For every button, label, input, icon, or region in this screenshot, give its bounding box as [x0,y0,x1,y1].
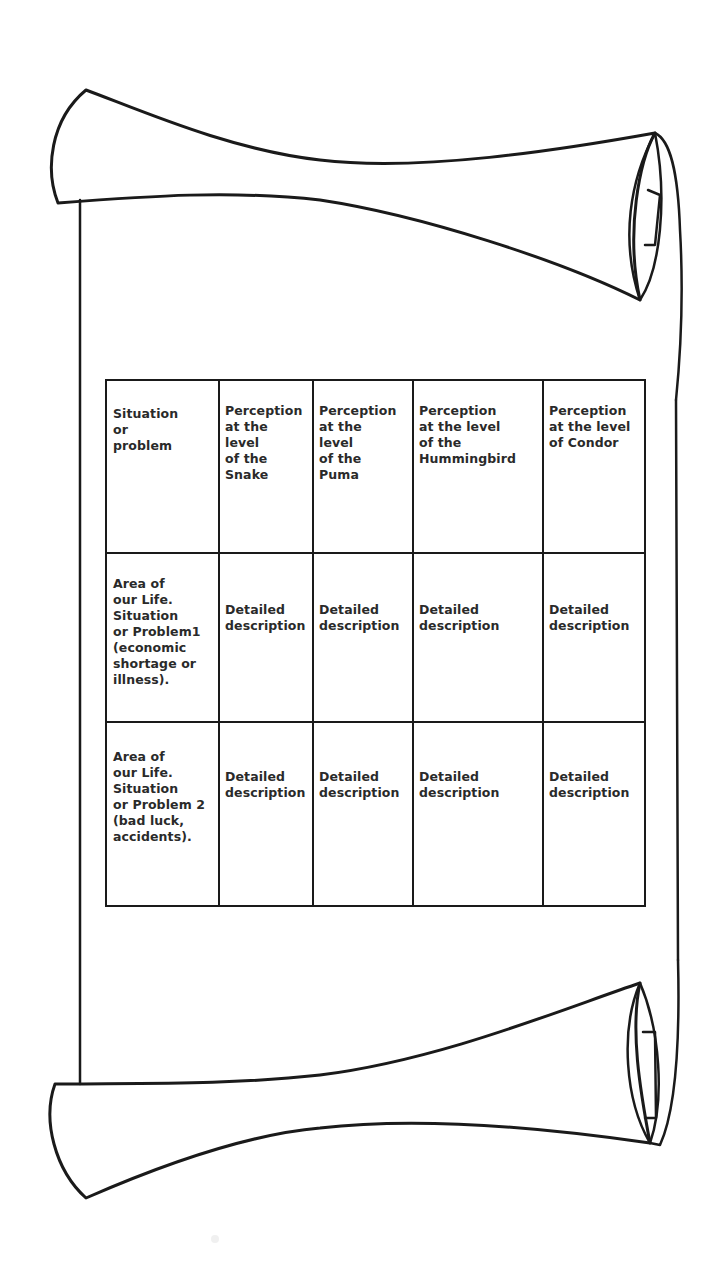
row-label-cell: Area of our Life. Situation or Problem 2… [106,722,219,906]
table-cell: Detailed description [219,722,313,906]
cell-text: Detailed description [225,723,307,801]
row-label: Area of our Life. Situation or Problem1 … [113,554,213,688]
table-cell: Detailed description [543,553,645,722]
table-cell: Detailed description [313,553,413,722]
header-text: Perception at the level of the Puma [319,403,407,483]
row-label-cell: Area of our Life. Situation or Problem1 … [106,553,219,722]
table-row: Area of our Life. Situation or Problem1 … [106,553,645,722]
header-text: Perception at the level of Condor [549,403,639,451]
cell-text: Detailed description [319,554,407,634]
table-cell: Detailed description [219,553,313,722]
cell-text: Detailed description [419,723,537,801]
table-row: Area of our Life. Situation or Problem 2… [106,722,645,906]
faint-artifact-mark [208,1232,222,1246]
header-cell-hummingbird: Perception at the level of the Hummingbi… [413,380,543,553]
header-cell-condor: Perception at the level of Condor [543,380,645,553]
top-roll-curl-tab [645,190,660,245]
right-edge [676,400,678,960]
header-cell-puma: Perception at the level of the Puma [313,380,413,553]
header-text: Perception at the level of the Hummingbi… [419,403,537,467]
header-cell-snake: Perception at the level of the Snake [219,380,313,553]
perception-table: Situation or problem Perception at the l… [105,379,646,907]
top-roll-outline [51,90,655,300]
table-header-row: Situation or problem Perception at the l… [106,380,645,553]
cell-text: Detailed description [419,554,537,634]
cell-text: Detailed description [549,723,639,801]
header-text: Perception at the level of the Snake [225,403,307,483]
header-text: Situation or problem [113,406,213,454]
header-cell-situation: Situation or problem [106,380,219,553]
row-label: Area of our Life. Situation or Problem 2… [113,723,213,845]
table-cell: Detailed description [413,722,543,906]
bottom-roll-curl-tab [643,1032,656,1118]
cell-text: Detailed description [549,554,639,634]
bottom-roll-outline [50,983,650,1198]
table-cell: Detailed description [413,553,543,722]
table-cell: Detailed description [313,722,413,906]
table-cell: Detailed description [543,722,645,906]
cell-text: Detailed description [225,554,307,634]
cell-text: Detailed description [319,723,407,801]
right-edge-top [655,133,682,400]
